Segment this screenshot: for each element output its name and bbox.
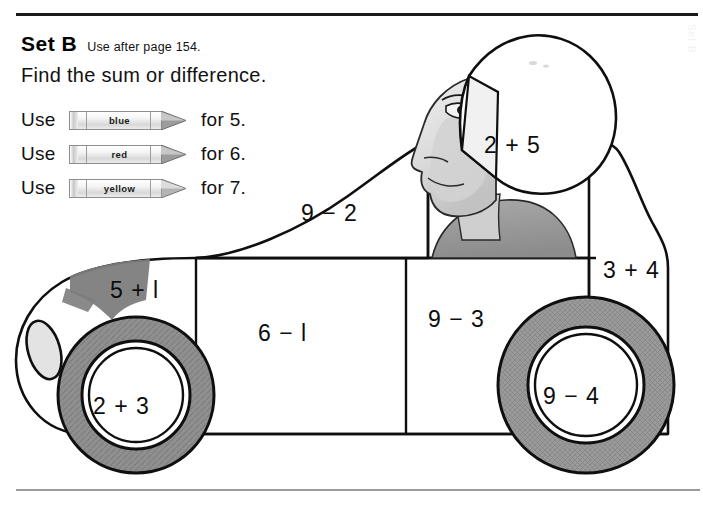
math-helmet: 2 + 5: [484, 132, 541, 159]
worksheet-page: Set B Use after page 154. Find the sum o…: [0, 0, 703, 505]
math-front-fender: 5 + l: [110, 277, 159, 304]
crayon-label: yellow: [104, 183, 135, 194]
math-rear-wheel: 9 − 4: [543, 383, 600, 410]
math-front-wheel: 2 + 3: [93, 393, 150, 420]
math-hood: 9 − 2: [301, 200, 358, 227]
margin-ghost-text: Set B: [675, 24, 697, 86]
math-rear-door: 9 − 3: [428, 306, 485, 333]
race-car-illustration: [0, 0, 703, 505]
crayon-label: red: [112, 149, 128, 160]
math-rear-panel: 3 + 4: [603, 257, 660, 284]
math-door: 6 − l: [258, 320, 307, 347]
bottom-rule: [16, 489, 700, 491]
crayon-label: blue: [109, 115, 130, 126]
